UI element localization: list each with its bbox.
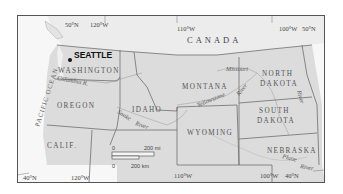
lon-label-bottom-120: 120°W (71, 174, 90, 181)
state-label-washington: WASHINGTON (58, 67, 120, 75)
country-label-canada: CANADA (187, 35, 241, 45)
lat-label-bottom-left: 40°N (23, 174, 37, 181)
state-label-south-dakota-2: DAKOTA (257, 117, 295, 125)
city-marker-seattle (68, 58, 72, 62)
lon-label-top-100: 100°W (279, 25, 298, 32)
state-label-north-dakota-1: NORTH (262, 70, 293, 78)
lon-label-top-110: 110°W (177, 25, 196, 32)
state-label-idaho: IDAHO (132, 106, 162, 114)
lat-label-bottom-right: 40°N (285, 172, 299, 179)
scale-label-miles: 200 mi (144, 145, 161, 151)
lon-label-bottom-100: 100°W (260, 172, 279, 179)
state-label-oregon: OREGON (57, 102, 95, 110)
river-label-missouri-1: Missouri (225, 65, 248, 72)
lat-label-top-right: 50°N (302, 25, 316, 32)
scale-zero-km: 0 (112, 163, 115, 169)
lat-label-top-left: 50°N (65, 21, 79, 28)
state-label-south-dakota-1: SOUTH (259, 107, 290, 115)
state-label-wyoming: WYOMING (187, 129, 233, 137)
map: 50°N 120°W 110°W 100°W 50°N 40°N 120°W 1… (17, 15, 325, 183)
lon-label-top-120: 120°W (90, 21, 109, 28)
state-label-montana: MONTANA (182, 83, 228, 91)
state-label-california: CALIF. (47, 142, 77, 150)
map-canvas: 50°N 120°W 110°W 100°W 50°N 40°N 120°W 1… (17, 15, 325, 183)
city-label-seattle: SEATTLE (74, 50, 112, 60)
scale-zero-mi: 0 (112, 145, 115, 151)
scale-label-km: 200 km (131, 163, 149, 169)
state-label-north-dakota-2: DAKOTA (260, 80, 298, 88)
lon-label-bottom-110: 110°W (174, 172, 193, 179)
